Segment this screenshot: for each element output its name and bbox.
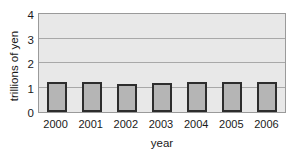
x-axis-tick-label: 2004 (179, 117, 214, 131)
bar[interactable] (187, 82, 207, 112)
bar-slot (39, 14, 74, 112)
bar-slot (180, 14, 215, 112)
plot-area (38, 13, 286, 113)
bar[interactable] (152, 83, 172, 112)
x-axis-tick-label: 2006 (249, 117, 284, 131)
y-axis-tick-label: 3 (0, 34, 34, 46)
x-axis-tick-labels: 2000200120022003200420052006 (38, 117, 286, 132)
bar[interactable] (47, 82, 67, 112)
bar-slot (215, 14, 250, 112)
x-axis-tick-label: 2001 (73, 117, 108, 131)
x-axis-tick-label: 2000 (38, 117, 73, 131)
bar-slot (74, 14, 109, 112)
y-axis-tick-label: 0 (0, 107, 34, 119)
bar[interactable] (82, 82, 102, 112)
bar-slot (109, 14, 144, 112)
y-axis-tick-labels: 01234 (0, 13, 34, 113)
bars-layer (39, 14, 285, 112)
y-axis-tick-label: 2 (0, 58, 34, 70)
x-axis-tick-label: 2005 (214, 117, 249, 131)
x-axis-tick-label: 2002 (108, 117, 143, 131)
x-axis-title: year (38, 136, 286, 150)
bar[interactable] (222, 82, 242, 112)
bar[interactable] (117, 84, 137, 112)
y-axis-tick-label: 4 (0, 9, 34, 21)
bar-slot (144, 14, 179, 112)
bar-chart: trillions of yen 01234 20002001200220032… (0, 0, 298, 164)
bar[interactable] (257, 82, 277, 112)
y-axis-tick-label: 1 (0, 83, 34, 95)
bar-slot (250, 14, 285, 112)
x-axis-tick-label: 2003 (143, 117, 178, 131)
